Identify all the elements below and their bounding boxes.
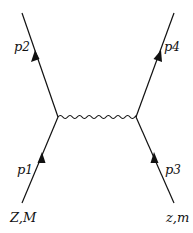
label-p2: p2 — [14, 40, 30, 53]
outgoing-line-p2 — [22, 13, 58, 117]
label-p1: p1 — [17, 163, 33, 176]
photon-propagator — [58, 116, 136, 119]
arrow-p1-icon — [38, 152, 46, 163]
diagram-lines — [0, 0, 193, 233]
label-p3: p3 — [165, 163, 181, 176]
feynman-diagram: p2 p4 p1 p3 Z,M z,m — [0, 0, 193, 233]
label-particle-left: Z,M — [10, 211, 36, 224]
label-p4: p4 — [164, 40, 180, 53]
outgoing-line-p4 — [136, 13, 174, 117]
arrow-p4-icon — [154, 50, 163, 62]
label-particle-right: z,m — [166, 211, 189, 224]
